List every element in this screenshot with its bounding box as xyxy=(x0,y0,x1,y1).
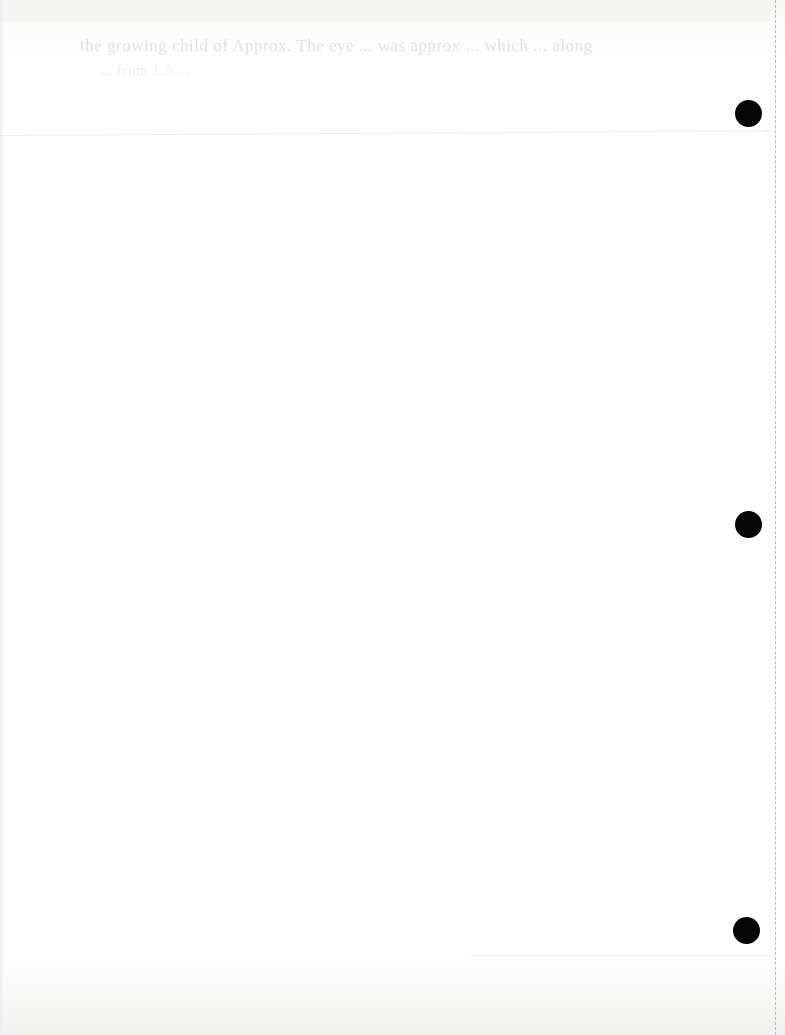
scan-shadow-band xyxy=(0,0,770,22)
page-left-edge xyxy=(0,0,4,1035)
horizontal-rule-top xyxy=(0,130,770,136)
punch-hole-top xyxy=(735,100,762,127)
punch-hole-bottom xyxy=(733,917,760,944)
horizontal-rule-bottom xyxy=(470,955,770,956)
scanned-page: the growing child of Approx. The eye ...… xyxy=(0,0,785,1035)
punch-hole-middle xyxy=(735,511,762,538)
bleed-through-text-line-2: ... from 1.5 ... xyxy=(100,62,190,79)
perforation-line xyxy=(775,0,776,1035)
bleed-through-text-line-1: the growing child of Approx. The eye ...… xyxy=(80,36,593,56)
